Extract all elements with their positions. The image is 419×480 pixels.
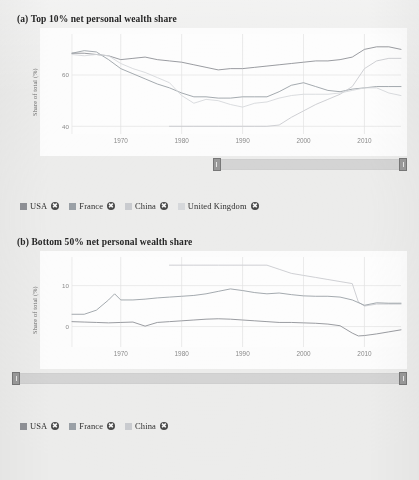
legend-remove-icon[interactable]: ✖ bbox=[107, 202, 115, 210]
panel-a-legend-item-united-kingdom[interactable]: United Kingdom✖ bbox=[178, 201, 259, 211]
legend-remove-icon[interactable]: ✖ bbox=[51, 422, 59, 430]
legend-color-swatch-icon bbox=[125, 423, 132, 430]
legend-color-swatch-icon bbox=[69, 203, 76, 210]
y-tick-label: 60 bbox=[62, 71, 69, 78]
panel-a-plot[interactable]: Share of total (%) 406019701980199020002… bbox=[40, 28, 407, 156]
panel-a-legend-item-china[interactable]: China✖ bbox=[125, 201, 168, 211]
panel-b-legend: USA✖France✖China✖ bbox=[0, 421, 419, 431]
legend-remove-icon[interactable]: ✖ bbox=[251, 202, 259, 210]
legend-label: France bbox=[79, 421, 103, 431]
legend-color-swatch-icon bbox=[178, 203, 185, 210]
legend-label: China bbox=[135, 201, 156, 211]
panel-a-svg: 406019701980199020002010 bbox=[40, 28, 407, 156]
x-tick-label: 1990 bbox=[235, 137, 250, 144]
panel-a-title: (a) Top 10% net personal wealth share bbox=[0, 0, 419, 25]
x-tick-label: 1970 bbox=[114, 350, 129, 357]
y-tick-label: 40 bbox=[62, 123, 69, 130]
x-tick-label: 1990 bbox=[235, 350, 250, 357]
legend-label: USA bbox=[30, 201, 47, 211]
panel-b-y-axis-label: Share of total (%) bbox=[31, 286, 38, 334]
panel-b-chart-card: Share of total (%) 010197019801990200020… bbox=[40, 251, 407, 369]
y-tick-label: 0 bbox=[66, 323, 70, 330]
legend-remove-icon[interactable]: ✖ bbox=[51, 202, 59, 210]
panel-b-legend-item-usa[interactable]: USA✖ bbox=[20, 421, 59, 431]
legend-remove-icon[interactable]: ✖ bbox=[107, 422, 115, 430]
panel-a-range-slider[interactable] bbox=[55, 158, 405, 169]
x-tick-label: 2000 bbox=[296, 350, 311, 357]
legend-label: France bbox=[79, 201, 103, 211]
panel-a-legend: USA✖France✖China✖United Kingdom✖ bbox=[0, 201, 419, 211]
panel-a-y-axis-label: Share of total (%) bbox=[31, 68, 38, 116]
y-tick-label: 10 bbox=[62, 282, 69, 289]
legend-label: China bbox=[135, 421, 156, 431]
legend-color-swatch-icon bbox=[20, 203, 27, 210]
page-root: (a) Top 10% net personal wealth share Sh… bbox=[0, 0, 419, 480]
panel-b-svg: 01019701980199020002010 bbox=[40, 251, 407, 369]
legend-color-swatch-icon bbox=[20, 423, 27, 430]
panel-a-legend-item-france[interactable]: France✖ bbox=[69, 201, 115, 211]
x-tick-label: 1980 bbox=[175, 350, 190, 357]
x-tick-label: 1970 bbox=[114, 137, 129, 144]
panel-b-slider-handle-right[interactable] bbox=[399, 372, 407, 385]
x-tick-label: 2000 bbox=[296, 137, 311, 144]
panel-b-legend-item-china[interactable]: China✖ bbox=[125, 421, 168, 431]
panel-b-title: (b) Bottom 50% net personal wealth share bbox=[0, 232, 419, 248]
x-tick-label: 2010 bbox=[357, 350, 372, 357]
legend-color-swatch-icon bbox=[125, 203, 132, 210]
panel-b-slider-track[interactable] bbox=[12, 373, 407, 384]
legend-color-swatch-icon bbox=[69, 423, 76, 430]
panel-bottom50: (b) Bottom 50% net personal wealth share… bbox=[0, 232, 419, 472]
x-tick-label: 2010 bbox=[357, 137, 372, 144]
panel-a-slider-handle-right[interactable] bbox=[399, 158, 407, 171]
panel-b-plot[interactable]: Share of total (%) 010197019801990200020… bbox=[40, 251, 407, 369]
panel-a-chart-card: Share of total (%) 406019701980199020002… bbox=[40, 28, 407, 156]
panel-b-slider-handle-left[interactable] bbox=[12, 372, 20, 385]
legend-remove-icon[interactable]: ✖ bbox=[160, 202, 168, 210]
panel-top10: (a) Top 10% net personal wealth share Sh… bbox=[0, 0, 419, 232]
panel-a-spacer bbox=[0, 169, 419, 195]
panel-a-legend-item-usa[interactable]: USA✖ bbox=[20, 201, 59, 211]
legend-remove-icon[interactable]: ✖ bbox=[160, 422, 168, 430]
panel-b-range-slider[interactable] bbox=[12, 372, 405, 383]
x-tick-label: 1980 bbox=[175, 137, 190, 144]
legend-label: United Kingdom bbox=[188, 201, 247, 211]
legend-label: USA bbox=[30, 421, 47, 431]
panel-a-slider-track[interactable] bbox=[213, 159, 408, 170]
panel-a-slider-handle-left[interactable] bbox=[213, 158, 221, 171]
panel-b-legend-item-france[interactable]: France✖ bbox=[69, 421, 115, 431]
